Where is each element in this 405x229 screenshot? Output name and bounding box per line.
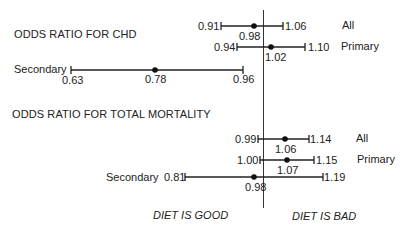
chd-panel-title: ODDS RATIO FOR CHD [14,28,137,40]
chd-primary-estimate: 1.02 [265,51,286,63]
mort-secondary-lower: 0.81 [164,171,185,183]
chd-all-label: All [342,19,354,31]
mort-all-label: All [356,132,368,144]
mort-primary-lower: 1.00 [237,154,258,166]
mort-secondary-estimate: 0.98 [245,181,266,193]
point-estimate-mort-primary [284,157,290,163]
chd-secondary-upper: 0.96 [233,73,254,85]
point-estimate-mort-all [282,136,288,142]
mort-primary-estimate: 1.07 [277,164,298,176]
chd-all-upper: 1.06 [285,20,306,32]
chd-primary-lower: 0.94 [214,41,235,53]
mort-all-lower: 0.99 [235,133,256,145]
diet-good-annotation: DIET IS GOOD [153,209,228,221]
chd-primary-label: Primary [341,40,379,52]
point-estimate-chd-all [251,23,257,29]
mort-secondary-upper: 1.19 [324,171,345,183]
chd-primary-upper: 1.10 [308,41,329,53]
chd-secondary-label: Secondary [14,63,67,75]
chd-secondary-lower: 0.63 [62,74,83,86]
mortality-panel-title: ODDS RATIO FOR TOTAL MORTALITY [12,108,211,120]
diet-bad-annotation: DIET IS BAD [292,210,356,222]
chd-all-lower: 0.91 [198,20,219,32]
chd-all-estimate: 0.98 [239,30,260,42]
mort-primary-label: Primary [357,153,395,165]
mort-secondary-label: Secondary [106,171,159,183]
chd-secondary-estimate: 0.78 [145,73,166,85]
point-estimate-chd-primary [268,44,274,50]
point-estimate-chd-secondary [152,67,158,73]
mort-all-estimate: 1.06 [275,143,296,155]
point-estimate-mort-secondary [251,174,257,180]
mort-all-upper: 1.14 [310,133,331,145]
mort-primary-upper: 1.15 [316,154,337,166]
